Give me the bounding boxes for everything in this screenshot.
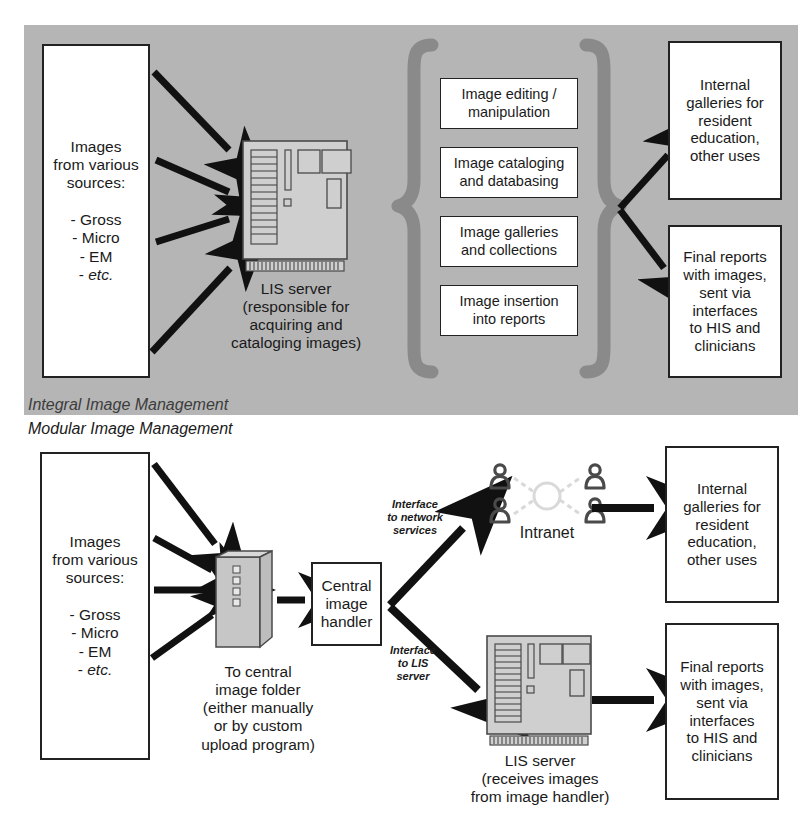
- modular-output-label-1: Final reportswith images,sent viainterfa…: [680, 658, 763, 764]
- modular-output-label-0: Internalgalleries forresidenteducation,o…: [683, 480, 761, 568]
- modular-output-box-1: Final reportswith images,sent viainterfa…: [665, 623, 779, 800]
- figure-root: Imagesfrom varioussources: - Gross- Micr…: [0, 0, 809, 828]
- modular-output-box-0: Internalgalleries forresidenteducation,o…: [665, 446, 779, 603]
